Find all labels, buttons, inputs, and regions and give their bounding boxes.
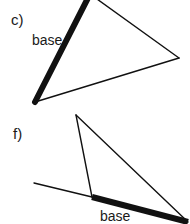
- figure-c-base-label: base: [32, 33, 62, 47]
- figure-f-base-extension: [34, 183, 92, 197]
- figure-f-base-label: base: [100, 209, 130, 223]
- figure-f-part-label: f): [13, 126, 22, 141]
- figure-c-right-edge: [90, 0, 179, 58]
- geometry-illustration: [0, 0, 190, 224]
- figure-panel: c) base f) base: [0, 0, 190, 224]
- figure-f-triangle: [34, 115, 188, 222]
- figure-c-triangle: [35, 0, 179, 102]
- figure-c-base-edge: [35, 0, 90, 102]
- figure-c-part-label: c): [11, 12, 24, 27]
